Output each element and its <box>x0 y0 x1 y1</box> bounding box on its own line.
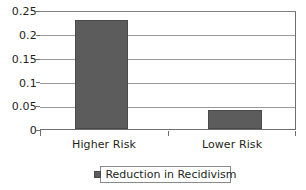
y-axis-tick-labels: 0.25 0.2 0.15 0.1 0.05 0 <box>0 0 37 190</box>
x-tick-mark-right <box>295 131 296 136</box>
bar-higher-risk[interactable] <box>75 20 128 129</box>
y-tick-label-0.05: 0.05 <box>3 101 37 112</box>
legend-swatch-icon <box>94 171 101 178</box>
y-tick-label-0: 0 <box>3 125 37 136</box>
y-tick-label-0.25: 0.25 <box>3 6 37 17</box>
y-tick-label-0.15: 0.15 <box>3 54 37 65</box>
x-tick-label-lower-risk: Lower Risk <box>168 139 296 151</box>
chart-legend[interactable]: Reduction in Recidivism <box>100 166 231 183</box>
x-tick-mark-center <box>168 131 169 136</box>
plot-area <box>40 11 296 130</box>
bar-lower-risk[interactable] <box>208 110 262 129</box>
legend-item-label: Reduction in Recidivism <box>105 169 236 181</box>
y-tick-label-0.1: 0.1 <box>3 78 37 89</box>
y-tick-label-0.2: 0.2 <box>3 30 37 41</box>
bar-chart: 0.25 0.2 0.15 0.1 0.05 0 Higher Risk Low… <box>0 0 306 190</box>
x-tick-mark-left <box>40 131 41 136</box>
x-tick-label-higher-risk: Higher Risk <box>40 139 168 151</box>
